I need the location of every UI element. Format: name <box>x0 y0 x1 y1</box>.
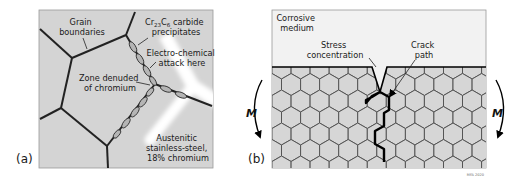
panel-a-label: (a) <box>16 152 33 166</box>
grain-cell <box>263 173 282 192</box>
grain-cell <box>501 156 520 178</box>
credit-text: MFA 2020 <box>467 173 484 177</box>
grain-cell <box>424 156 443 178</box>
grain-cell <box>329 156 348 178</box>
hex-grid <box>253 57 529 191</box>
grain-cell <box>482 156 501 178</box>
panel-b-label: (b) <box>248 152 265 166</box>
grain-cell <box>310 156 329 178</box>
grain-cell <box>301 173 320 192</box>
grain-cell <box>510 140 529 162</box>
grain-cell <box>444 156 463 178</box>
grain-cell <box>501 123 520 145</box>
carbide-label-line2: precipitates <box>152 27 200 37</box>
grain-cell <box>282 173 301 192</box>
grain-cell <box>510 173 529 192</box>
grain-cell <box>434 173 453 192</box>
grain-cell <box>253 123 272 145</box>
corrosive-medium-label: Corrosive medium <box>276 13 317 33</box>
grain-cell <box>510 107 529 129</box>
grain-cell <box>253 57 272 79</box>
crack-path-label: Crack path <box>411 40 437 60</box>
moment-label-right: M <box>492 107 503 120</box>
moment-label-left: M <box>246 107 257 120</box>
grain-cell <box>291 156 310 178</box>
grain-cell <box>272 156 291 178</box>
grain-cell <box>501 57 520 79</box>
grain-cell <box>377 173 396 192</box>
grain-cell <box>339 173 358 192</box>
grain-cell <box>405 156 424 178</box>
grain-cell <box>358 173 377 192</box>
grain-cell <box>491 140 510 162</box>
panel-b: Corrosive medium Stress concentration Cr… <box>246 10 529 191</box>
grain-cell <box>396 173 415 192</box>
grain-cell <box>510 74 529 96</box>
grain-cell <box>386 156 405 178</box>
grain-cell <box>415 173 434 192</box>
figure: Grain boundaries Cr23C6 carbide precipit… <box>0 0 531 191</box>
zone-denuded-label: Zone denuded of chromium <box>79 73 141 93</box>
grain-cell <box>348 156 367 178</box>
panel-a: Grain boundaries Cr23C6 carbide precipit… <box>16 10 230 168</box>
grain-cell <box>491 173 510 192</box>
grain-cell <box>320 173 339 192</box>
